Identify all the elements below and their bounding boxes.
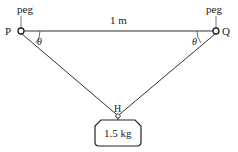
distance-label: 1 m <box>110 14 127 26</box>
point-label-q: Q <box>222 25 230 37</box>
string-qh <box>120 34 215 114</box>
hook-label: H <box>114 103 121 114</box>
peg-label-q: peg <box>206 3 222 15</box>
mass-label: 1.5 kg <box>104 127 132 139</box>
peg-q-icon <box>213 28 219 34</box>
peg-label-p: peg <box>17 3 33 15</box>
peg-p-icon <box>18 28 24 34</box>
pulley-diagram: peg peg P Q 1 m θ θ H 1.5 kg <box>0 0 238 152</box>
angle-arc-q <box>197 31 201 43</box>
hook-icon <box>116 114 120 118</box>
point-label-p: P <box>5 25 11 37</box>
angle-label-p: θ <box>37 36 42 47</box>
angle-label-q: θ <box>192 36 197 47</box>
